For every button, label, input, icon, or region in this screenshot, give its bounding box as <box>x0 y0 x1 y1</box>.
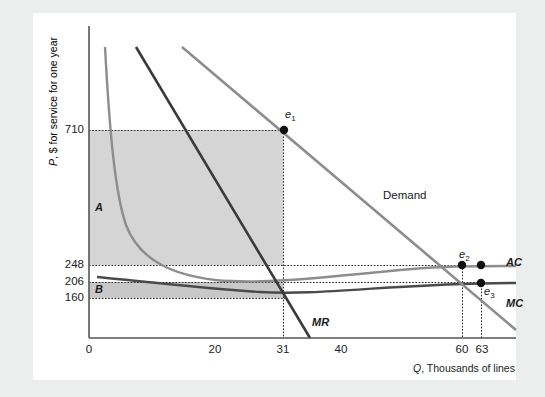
mr-label: MR <box>312 316 329 328</box>
mc-label: MC <box>506 297 523 309</box>
point-label-e3: e3 <box>484 285 495 300</box>
x-axis-symbol: Q <box>413 362 421 374</box>
y-axis-symbol: P <box>47 159 59 166</box>
marker-ac-63[interactable] <box>477 261 485 269</box>
y-tick-248: 248 <box>52 258 84 270</box>
x-tick-0: 0 <box>79 343 99 355</box>
point-label-e1: e1 <box>285 108 296 123</box>
x-tick-60: 60 <box>452 343 472 355</box>
region-label-b: B <box>95 283 103 295</box>
y-tick-160: 160 <box>52 291 84 303</box>
x-tick-63: 63 <box>472 343 492 355</box>
chart-canvas <box>0 0 545 397</box>
marker-e1[interactable] <box>280 126 288 134</box>
demand-label: Demand <box>383 189 426 201</box>
figure-root: P, $ for service for one year 710 248 20… <box>0 0 545 397</box>
y-axis-title: P, $ for service for one year <box>47 37 59 166</box>
ac-label: AC <box>506 256 522 268</box>
y-axis-title-rest: , $ for service for one year <box>47 37 59 159</box>
x-tick-31: 31 <box>273 343 293 355</box>
y-tick-206: 206 <box>52 275 84 287</box>
region-B-fill <box>89 282 283 298</box>
x-axis-title-rest: , Thousands of lines <box>421 362 515 374</box>
x-tick-40: 40 <box>331 343 351 355</box>
y-tick-710: 710 <box>52 123 84 135</box>
point-label-e2: e2 <box>459 248 470 263</box>
x-tick-20: 20 <box>205 343 225 355</box>
x-axis-title: Q, Thousands of lines <box>413 362 515 374</box>
region-label-a: A <box>95 201 103 213</box>
